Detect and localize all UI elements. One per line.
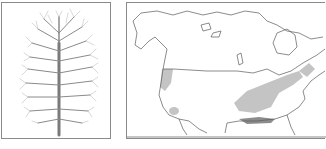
tree-illustration-panel — [1, 2, 111, 139]
north-america-map — [127, 3, 326, 138]
range-map-panel — [126, 2, 325, 139]
tree-illustration — [2, 3, 110, 138]
range-areas — [160, 63, 315, 124]
